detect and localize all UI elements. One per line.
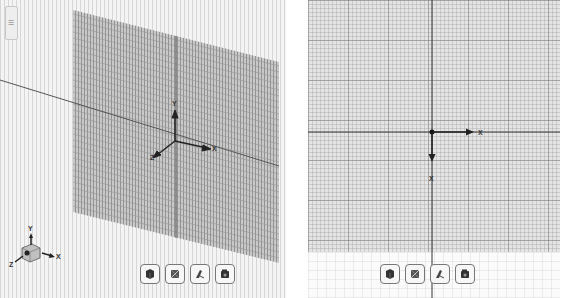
draw-style-button[interactable] — [190, 264, 210, 284]
svg-text:X: X — [429, 175, 434, 182]
svg-text:Y: Y — [172, 100, 177, 107]
top-grid: X X — [308, 0, 560, 298]
svg-text:X: X — [56, 253, 61, 260]
pen-icon — [194, 268, 206, 280]
wireframe-icon — [409, 268, 421, 280]
perspective-grid: Y X Z Y X Z — [0, 0, 286, 298]
side-panel-tab[interactable]: ☰ — [5, 6, 18, 40]
cube-icon — [144, 268, 156, 280]
draw-style-button[interactable] — [430, 264, 450, 284]
shaded-view-button[interactable] — [380, 264, 400, 284]
camera-icon — [459, 268, 471, 280]
camera-icon — [219, 268, 231, 280]
pen-icon — [434, 268, 446, 280]
wireframe-view-button[interactable] — [165, 264, 185, 284]
perspective-viewport[interactable]: Y X Z Y X Z ☰ — [0, 0, 286, 298]
svg-text:Y: Y — [28, 225, 33, 232]
camera-view-button[interactable] — [215, 264, 235, 284]
right-view-toolbar — [380, 264, 475, 284]
svg-text:X: X — [212, 145, 217, 152]
svg-text:Z: Z — [150, 154, 155, 161]
left-view-toolbar — [140, 264, 235, 284]
svg-text:Z: Z — [9, 261, 14, 268]
svg-text:X: X — [478, 129, 483, 136]
camera-view-button[interactable] — [455, 264, 475, 284]
shaded-view-button[interactable] — [140, 264, 160, 284]
wireframe-view-button[interactable] — [405, 264, 425, 284]
top-viewport[interactable]: X X — [308, 0, 560, 298]
wireframe-icon — [169, 268, 181, 280]
cube-icon — [384, 268, 396, 280]
